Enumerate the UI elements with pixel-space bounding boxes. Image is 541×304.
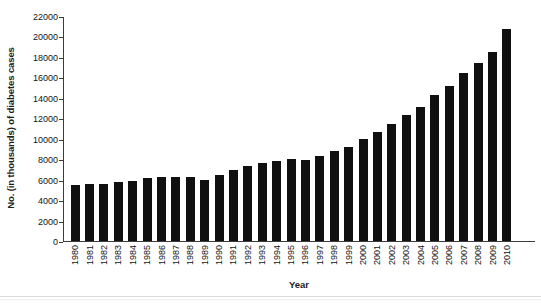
y-tick-label: 0 xyxy=(20,238,58,247)
bar-slot xyxy=(341,17,355,241)
x-tick-label: 1985 xyxy=(143,245,152,265)
bar-slot xyxy=(413,17,427,241)
bar-slot xyxy=(298,17,312,241)
x-tick-slot: 2004 xyxy=(413,245,427,277)
y-tick-mark xyxy=(59,222,63,223)
bar-slot xyxy=(356,17,370,241)
bar xyxy=(474,63,483,241)
x-tick-label: 2007 xyxy=(459,245,468,265)
bar-slot xyxy=(313,17,327,241)
bar xyxy=(344,147,353,241)
bar-slot xyxy=(327,17,341,241)
x-tick-label: 1990 xyxy=(215,245,224,265)
bar-slot xyxy=(385,17,399,241)
bar-slot xyxy=(82,17,96,241)
x-tick-slot: 2001 xyxy=(370,245,384,277)
bar-slot xyxy=(126,17,140,241)
bar-slot xyxy=(500,17,514,241)
x-tick-label: 1989 xyxy=(200,245,209,265)
x-tick-slot: 2006 xyxy=(442,245,456,277)
y-axis-title: No. (in thousands) of diabetes cases xyxy=(2,8,20,248)
x-tick-slot: 1987 xyxy=(169,245,183,277)
x-tick-slot: 1980 xyxy=(68,245,82,277)
bar-slot xyxy=(485,17,499,241)
bar-slot xyxy=(442,17,456,241)
y-tick-mark xyxy=(59,78,63,79)
x-tick-label: 1984 xyxy=(128,245,137,265)
y-tick-label: 4000 xyxy=(20,197,58,206)
y-tick-mark xyxy=(59,160,63,161)
bar xyxy=(287,159,296,241)
x-tick-label: 1983 xyxy=(114,245,123,265)
x-tick-slot: 1986 xyxy=(154,245,168,277)
bar xyxy=(272,161,281,241)
x-tick-slot: 1981 xyxy=(82,245,96,277)
y-tick-label: 12000 xyxy=(20,115,58,124)
x-tick-label: 2006 xyxy=(445,245,454,265)
bar-slot xyxy=(255,17,269,241)
bar xyxy=(359,139,368,241)
x-tick-slot: 1984 xyxy=(126,245,140,277)
x-tick-slot: 1997 xyxy=(313,245,327,277)
bar xyxy=(215,175,224,241)
plot-area xyxy=(63,17,535,242)
bar xyxy=(402,115,411,241)
x-tick-slot: 2005 xyxy=(428,245,442,277)
bar xyxy=(114,182,123,241)
bar-slot xyxy=(241,17,255,241)
bar xyxy=(373,132,382,241)
y-tick-mark xyxy=(59,17,63,18)
x-tick-slot: 1989 xyxy=(198,245,212,277)
bar xyxy=(71,185,80,241)
bar-slot xyxy=(154,17,168,241)
bar xyxy=(445,86,454,241)
bar xyxy=(128,181,137,241)
bar xyxy=(99,184,108,241)
bar-slot xyxy=(370,17,384,241)
bar xyxy=(171,177,180,241)
y-tick-label: 14000 xyxy=(20,94,58,103)
bar-slot xyxy=(68,17,82,241)
bar xyxy=(186,177,195,241)
x-tick-slot: 1983 xyxy=(111,245,125,277)
x-tick-label: 1981 xyxy=(85,245,94,265)
bar xyxy=(258,163,267,241)
bar-slot xyxy=(457,17,471,241)
bar xyxy=(200,180,209,241)
x-tick-slot: 2000 xyxy=(356,245,370,277)
bar xyxy=(488,52,497,241)
y-tick-label: 20000 xyxy=(20,33,58,42)
x-tick-label: 1996 xyxy=(301,245,310,265)
x-tick-label: 2002 xyxy=(387,245,396,265)
x-tick-slot: 1993 xyxy=(255,245,269,277)
bar xyxy=(243,166,252,241)
y-tick-label: 8000 xyxy=(20,156,58,165)
y-tick-mark xyxy=(59,181,63,182)
footer-divider-secondary xyxy=(0,299,541,300)
x-tick-label: 2010 xyxy=(502,245,511,265)
y-tick-label: 22000 xyxy=(20,13,58,22)
bar-slot xyxy=(97,17,111,241)
bar-chart-figure: No. (in thousands) of diabetes cases 020… xyxy=(0,0,541,304)
x-tick-label: 1999 xyxy=(344,245,353,265)
x-tick-label: 2008 xyxy=(474,245,483,265)
y-tick-label: 16000 xyxy=(20,74,58,83)
x-tick-slot: 1999 xyxy=(341,245,355,277)
bar xyxy=(157,177,166,241)
y-tick-mark xyxy=(59,119,63,120)
x-tick-label: 2000 xyxy=(359,245,368,265)
y-tick-mark xyxy=(59,242,63,243)
bar-slot xyxy=(471,17,485,241)
x-tick-slot: 2009 xyxy=(485,245,499,277)
bar-slot xyxy=(169,17,183,241)
x-tick-label: 2004 xyxy=(416,245,425,265)
x-tick-label: 1998 xyxy=(330,245,339,265)
x-tick-label: 2001 xyxy=(373,245,382,265)
x-tick-slot: 1982 xyxy=(97,245,111,277)
x-tick-label: 1995 xyxy=(287,245,296,265)
x-tick-slot: 1991 xyxy=(226,245,240,277)
footer-divider xyxy=(0,296,541,297)
x-tick-slot: 1996 xyxy=(298,245,312,277)
bar-slot xyxy=(111,17,125,241)
x-tick-label: 1988 xyxy=(186,245,195,265)
